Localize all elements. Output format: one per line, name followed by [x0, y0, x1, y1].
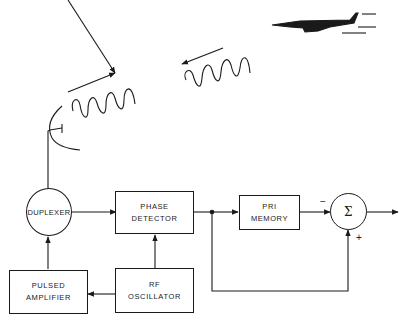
phase-detector-label-2: DETECTOR	[132, 213, 178, 225]
pri-memory-label-2: MEMORY	[251, 213, 288, 225]
jet-aircraft-icon	[272, 13, 376, 33]
outgoing-sine-wave	[68, 0, 135, 117]
rf-oscillator-label-2: OSCILLATOR	[128, 291, 181, 303]
pulsed-amplifier-label-2: AMPLIFIER	[26, 292, 71, 304]
rf-oscillator-label-1: RF	[149, 279, 160, 291]
dish-antenna-icon	[48, 106, 80, 190]
sigma-symbol: Σ	[344, 205, 353, 219]
pri-memory-block: PRI MEMORY	[239, 195, 300, 230]
pri-memory-label-1: PRI	[262, 201, 276, 213]
plus-sign: +	[356, 232, 362, 243]
phase-detector-block: PHASE DETECTOR	[115, 191, 194, 234]
duplexer-label: DUPLEXER	[28, 208, 71, 217]
returning-sine-wave	[182, 48, 250, 86]
summer-block: Σ	[330, 193, 367, 230]
duplexer-block: DUPLEXER	[26, 188, 72, 236]
pulsed-amplifier-block: PULSED AMPLIFIER	[9, 270, 88, 314]
phase-detector-label-1: PHASE	[140, 201, 168, 213]
pulsed-amplifier-label-1: PULSED	[32, 280, 66, 292]
radar-block-diagram: DUPLEXER PHASE DETECTOR PRI MEMORY Σ − +…	[0, 0, 407, 321]
minus-sign: −	[320, 196, 326, 207]
rf-oscillator-block: RF OSCILLATOR	[115, 268, 194, 313]
